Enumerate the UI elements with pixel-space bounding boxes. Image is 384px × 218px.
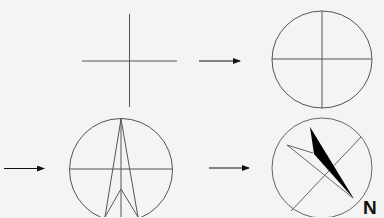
north-label: N	[363, 199, 377, 217]
needle-left-edge	[287, 145, 313, 153]
compass-drawing-diagram	[0, 0, 384, 217]
step-2-circle-cross	[272, 11, 372, 108]
diagonal-line	[291, 137, 361, 211]
step-1-cross	[82, 14, 177, 107]
circle	[272, 118, 372, 217]
step-3-needle-outline	[70, 119, 173, 218]
needle-filled-half	[310, 127, 354, 199]
step-4-compass-needle	[272, 118, 372, 217]
